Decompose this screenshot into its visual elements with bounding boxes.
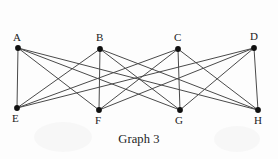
vertex-label-b: B <box>96 32 103 43</box>
graph-vertex-b[interactable] <box>97 46 103 52</box>
vertex-label-h: H <box>254 115 262 126</box>
graph-edge <box>178 49 258 110</box>
graph-vertex-h[interactable] <box>255 107 261 113</box>
graph-vertex-c[interactable] <box>175 46 181 52</box>
graph-edge <box>18 48 258 110</box>
vertex-label-f: F <box>95 115 101 126</box>
graph-edge <box>17 48 18 108</box>
graph-vertex-a[interactable] <box>15 45 21 51</box>
graph-vertex-f[interactable] <box>96 107 102 113</box>
figure-caption: Graph 3 <box>0 132 278 147</box>
vertex-label-a: A <box>13 32 21 43</box>
graph-edge <box>17 49 178 108</box>
graph-edge <box>17 49 100 108</box>
vertex-label-e: E <box>12 113 19 124</box>
graph-edge <box>99 49 100 110</box>
vertex-label-d: D <box>250 31 258 42</box>
graph-edge <box>254 48 258 110</box>
vertex-label-c: C <box>174 32 181 43</box>
vertex-label-g: G <box>175 115 183 126</box>
graph-edge <box>100 49 180 110</box>
graph-figure: ABCDEFGH Graph 3 <box>0 0 278 159</box>
graph-edge <box>99 49 178 110</box>
edge-layer <box>17 48 258 110</box>
graph-vertex-g[interactable] <box>177 107 183 113</box>
graph-vertex-e[interactable] <box>14 105 20 111</box>
graph-vertex-d[interactable] <box>251 45 257 51</box>
